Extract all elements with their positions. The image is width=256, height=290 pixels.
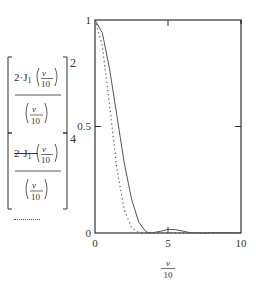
x-tick-label-5: 5 — [165, 237, 171, 249]
y-tick-label-0.5: 0.5 — [77, 120, 91, 132]
plot-area: 1 0.5 0 0 5 10 v 10 — [0, 0, 256, 290]
y-tick-label-1: 1 — [86, 14, 92, 26]
y-tick-label-0: 0 — [86, 227, 92, 239]
x-axis-label-numerator: v — [166, 258, 170, 268]
series-fourth-power-line — [95, 20, 241, 233]
x-tick-label-10: 10 — [236, 237, 248, 249]
x-tick-label-0: 0 — [92, 237, 98, 249]
plot-frame — [95, 20, 241, 233]
x-axis-label-denominator: 10 — [164, 270, 174, 280]
series-squared-line — [95, 20, 241, 233]
